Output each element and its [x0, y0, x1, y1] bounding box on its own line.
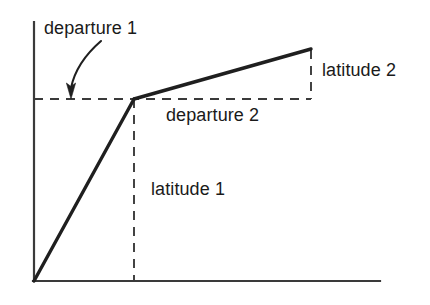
traverse-diagram — [0, 0, 430, 305]
departure-1-arrow-curve — [71, 41, 101, 88]
traverse-leg-1 — [34, 99, 134, 281]
label-departure-2: departure 2 — [166, 105, 259, 125]
label-departure-1: departure 1 — [44, 18, 137, 38]
traverse-leg-2 — [134, 49, 311, 99]
label-latitude-1: latitude 1 — [151, 179, 225, 199]
label-latitude-2: latitude 2 — [322, 60, 396, 80]
